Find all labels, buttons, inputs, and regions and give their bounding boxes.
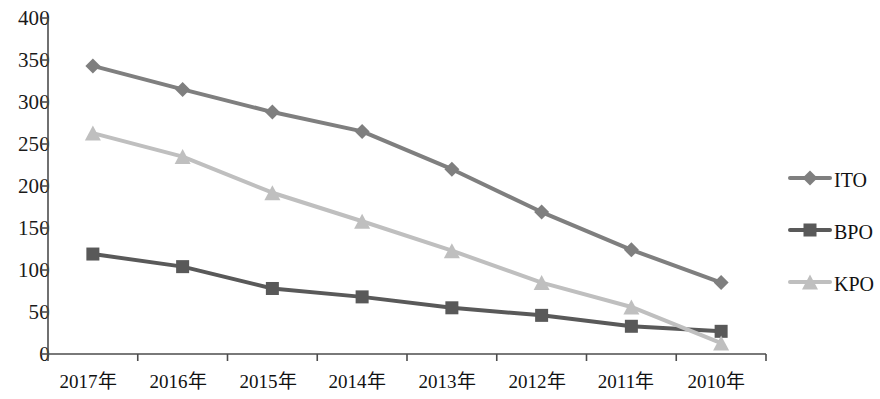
data-point-bpo-0	[86, 248, 99, 261]
data-point-ito-4	[444, 162, 459, 177]
data-point-ito-3	[355, 124, 370, 139]
data-point-bpo-1	[176, 260, 189, 273]
data-point-bpo-4	[445, 301, 458, 314]
data-point-ito-7	[714, 275, 729, 290]
data-point-ito-2	[265, 105, 280, 120]
line-chart: 400 350 300 250 200 150 100 50 0 2017年 2…	[0, 0, 880, 399]
legend-marker-bpo	[804, 224, 817, 237]
legend-marker-ito	[803, 171, 818, 186]
data-point-ito-6	[624, 242, 639, 257]
series-ito	[85, 58, 728, 290]
data-point-ito-1	[175, 82, 190, 97]
series-bpo	[86, 248, 727, 338]
legend-swatch-kpo[interactable]	[790, 275, 830, 290]
data-point-bpo-6	[625, 320, 638, 333]
data-point-bpo-2	[266, 282, 279, 295]
data-point-ito-5	[534, 205, 549, 220]
data-point-ito-0	[85, 58, 100, 73]
series-kpo	[85, 126, 729, 351]
legend-swatch-ito[interactable]	[790, 171, 830, 186]
data-point-kpo-7	[713, 336, 729, 351]
data-point-bpo-3	[356, 290, 369, 303]
plot-area	[0, 0, 880, 399]
data-point-bpo-5	[535, 309, 548, 322]
legend-swatch-bpo[interactable]	[790, 224, 830, 237]
